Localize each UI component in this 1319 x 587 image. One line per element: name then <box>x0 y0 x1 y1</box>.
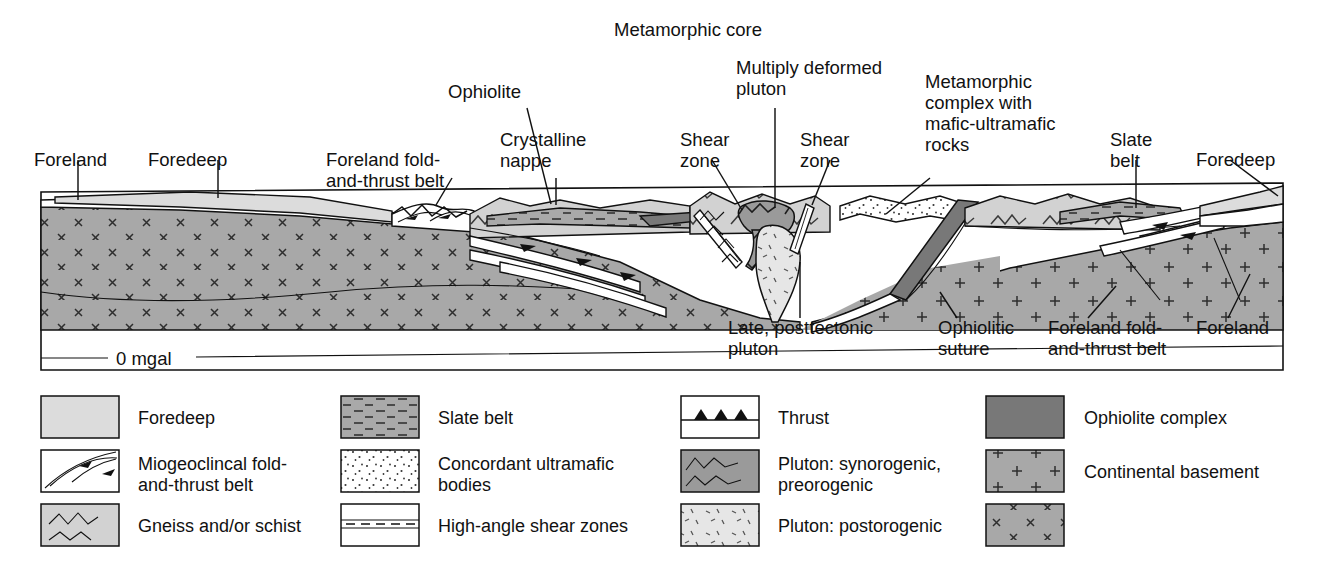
legend-label-ultramafic-line2: bodies <box>438 475 491 495</box>
legend-label-miogeoclinal-line1: Miogeoclincal fold- <box>138 454 287 474</box>
label-ophiolitic-suture-line1: Ophiolitic <box>938 317 1014 338</box>
legend-item-pluton-synorogenic: Pluton: synorogenic, preorogenic <box>681 450 941 495</box>
label-metamorphic-complex-line3: mafic-ultramafic <box>925 113 1056 134</box>
gravity-label: 0 mgal <box>116 348 172 369</box>
legend-item-concordant-ultramafic-bodies: Concordant ultramafic bodies <box>341 450 614 495</box>
label-foreland-fold-thrust-left-line2: and-thrust belt <box>326 170 444 191</box>
label-multiply-deformed-pluton-line2: pluton <box>736 78 786 99</box>
legend-item-continental-basement: Continental basement <box>986 450 1259 492</box>
legend-item-miogeoclinal-fold-and-thrust-belt: Miogeoclincal fold- and-thrust belt <box>41 450 287 495</box>
legend-item-ophiolite-complex: Ophiolite complex <box>986 396 1227 438</box>
label-shear-zone-left-line1: Shear <box>680 129 729 150</box>
label-foredeep-left: Foredeep <box>148 149 227 170</box>
metamorphic-core <box>690 192 830 322</box>
legend-item-high-angle-shear-zones: High-angle shear zones <box>341 504 628 546</box>
legend-label-synorogenic-line1: Pluton: synorogenic, <box>778 454 941 474</box>
legend-item-basement-x-pattern <box>986 504 1064 546</box>
label-shear-zone-right-line1: Shear <box>800 129 849 150</box>
legend-label-ophiolite-complex: Ophiolite complex <box>1084 408 1227 428</box>
label-ophiolite: Ophiolite <box>448 81 521 102</box>
label-metamorphic-complex-line4: rocks <box>925 134 969 155</box>
legend-label-continental-basement: Continental basement <box>1084 462 1259 482</box>
label-late-pluton-line1: Late, posttectonic <box>728 317 873 338</box>
legend-item-gneiss-and-or-schist: Gneiss and/or schist <box>41 504 301 546</box>
label-foreland-left: Foreland <box>34 149 107 170</box>
legend-label-thrust: Thrust <box>778 408 829 428</box>
cross-section-figure: 0 mgal Metamorphic core Foreland Foredee… <box>0 0 1319 587</box>
legend-label-slate-belt: Slate belt <box>438 408 513 428</box>
label-late-pluton-line2: pluton <box>728 338 778 359</box>
label-crystalline-nappe-line2: nappe <box>500 150 551 171</box>
label-multiply-deformed-pluton-line1: Multiply deformed <box>736 57 882 78</box>
legend-label-gneiss: Gneiss and/or schist <box>138 516 301 536</box>
label-foreland-fold-thrust-left-line1: Foreland fold- <box>326 149 440 170</box>
legend-label-ultramafic-line1: Concordant ultramafic <box>438 454 614 474</box>
legend-item-slate-belt: Slate belt <box>341 396 513 438</box>
label-metamorphic-complex-line2: complex with <box>925 92 1032 113</box>
label-ophiolitic-suture-line2: suture <box>938 338 989 359</box>
label-slate-belt-line2: belt <box>1110 150 1140 171</box>
label-shear-zone-right-line2: zone <box>800 150 840 171</box>
figure-canvas: 0 mgal Metamorphic core Foreland Foredee… <box>0 0 1319 587</box>
legend-item-thrust: Thrust <box>681 396 829 438</box>
label-foreland-right: Foreland <box>1196 317 1269 338</box>
legend-item-foredeep: Foredeep <box>41 396 215 438</box>
label-metamorphic-complex-line1: Metamorphic <box>925 71 1032 92</box>
legend-label-foredeep: Foredeep <box>138 408 215 428</box>
label-shear-zone-left-line2: zone <box>680 150 720 171</box>
label-slate-belt-line1: Slate <box>1110 129 1152 150</box>
label-crystalline-nappe-line1: Crystalline <box>500 129 586 150</box>
label-foreland-fold-thrust-right-line1: Foreland fold- <box>1048 317 1162 338</box>
legend-label-miogeoclinal-line2: and-thrust belt <box>138 475 253 495</box>
legend-label-shear-zones: High-angle shear zones <box>438 516 628 536</box>
legend-item-pluton-postorogenic: Pluton: postorogenic <box>681 504 942 546</box>
label-foredeep-right: Foredeep <box>1196 149 1275 170</box>
legend-label-synorogenic-line2: preorogenic <box>778 475 873 495</box>
legend-label-postorogenic: Pluton: postorogenic <box>778 516 942 536</box>
label-foreland-fold-thrust-right-line2: and-thrust belt <box>1048 338 1166 359</box>
label-metamorphic-core: Metamorphic core <box>614 19 762 40</box>
legend: Foredeep Miogeoclincal fold- and-thrust … <box>41 396 1259 546</box>
